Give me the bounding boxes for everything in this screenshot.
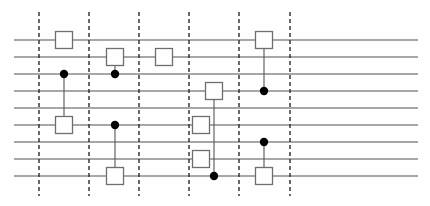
control-dot-icon xyxy=(260,138,268,146)
qubit-wires xyxy=(14,40,418,176)
target-gate-box xyxy=(107,168,124,185)
control-dot-icon xyxy=(260,87,268,95)
gate-box xyxy=(193,151,210,168)
control-dot-icon xyxy=(210,172,218,180)
control-dot-icon xyxy=(60,70,68,78)
gate-box xyxy=(193,117,210,134)
target-gate-box xyxy=(107,49,124,66)
target-gate-box xyxy=(256,32,273,49)
gate-box xyxy=(156,49,173,66)
control-dot-icon xyxy=(111,121,119,129)
target-gate-box xyxy=(206,83,223,100)
target-gate-box xyxy=(256,168,273,185)
gate-box xyxy=(56,32,73,49)
quantum-circuit-diagram xyxy=(0,0,430,206)
target-gate-box xyxy=(56,117,73,134)
control-dot-icon xyxy=(111,70,119,78)
